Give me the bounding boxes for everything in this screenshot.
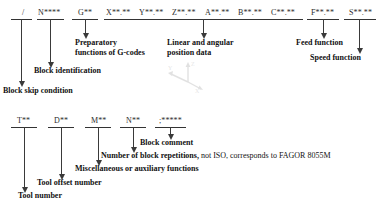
coordinate-axes-watermark: Z Y X — [162, 60, 204, 94]
connector-position-data — [203, 19, 204, 34]
connector-feed — [323, 19, 324, 34]
connector-tool-offset — [61, 127, 62, 175]
token-tool-offset: D** — [54, 116, 68, 125]
connector-comment — [170, 127, 171, 135]
annotation-speed-function: Speed function — [310, 53, 361, 63]
rule-speed — [344, 19, 376, 20]
connector-tool — [24, 127, 25, 188]
annotation-repetitions-note: Number of block repetitions, not ISO, co… — [101, 151, 331, 161]
token-speed: S**.** — [349, 8, 372, 17]
annotation-misc-functions: Miscellaneous or auxiliary functions — [75, 164, 199, 174]
token-axis-b: B**.** — [238, 8, 262, 17]
annotation-block-skip-condition: Block skip condition — [3, 86, 73, 96]
annotation-block-comment: Block comment — [140, 138, 193, 148]
annotation-tool-number: Tool number — [18, 191, 62, 201]
annotation-position-data-line2: position data — [167, 48, 234, 58]
token-axis-c: C**.** — [271, 8, 295, 17]
annotation-feed-function: Feed function — [296, 38, 343, 48]
token-comment: ;***** — [159, 116, 182, 125]
annotation-repetitions-note-bold: Number of block repetitions, — [101, 151, 199, 160]
token-g-code: G** — [78, 8, 92, 17]
annotation-block-identification: Block identification — [34, 66, 101, 76]
token-axis-z: Z**.** — [172, 8, 196, 17]
annotation-tool-offset-number: Tool offset number — [37, 178, 102, 188]
connector-block-skip — [21, 19, 22, 82]
token-block-number: N**** — [38, 8, 60, 17]
connector-repetitions — [133, 127, 134, 148]
annotation-preparatory-functions-line2: functions of G-codes — [75, 48, 145, 58]
token-feed: F**.** — [311, 8, 334, 17]
token-axis-y: Y**.** — [139, 8, 163, 17]
svg-text:X: X — [195, 88, 200, 94]
token-block-skip: / — [22, 8, 24, 17]
token-axis-x: X**.** — [106, 8, 130, 17]
annotation-position-data-line1: Linear and angular — [167, 38, 234, 48]
annotation-repetitions-note-plain: not ISO, corresponds to FAGOR 8055M — [199, 151, 331, 160]
annotation-position-data: Linear and angular position data — [167, 38, 234, 57]
connector-block-number — [50, 19, 51, 63]
connector-m-code — [98, 127, 99, 161]
annotation-preparatory-functions: Preparatory functions of G-codes — [75, 38, 145, 57]
token-repetitions: N** — [126, 116, 140, 125]
connector-g-code — [85, 19, 86, 34]
annotation-preparatory-functions-line1: Preparatory — [75, 38, 145, 48]
gcode-block-structure-diagram: / Block skip condition N**** Block ident… — [0, 0, 378, 213]
svg-text:Y: Y — [168, 65, 173, 71]
token-axis-a: A**.** — [205, 8, 229, 17]
svg-text:Z: Z — [191, 61, 195, 67]
connector-speed — [359, 19, 360, 49]
token-m-code: M** — [91, 116, 106, 125]
token-tool: T** — [17, 116, 30, 125]
